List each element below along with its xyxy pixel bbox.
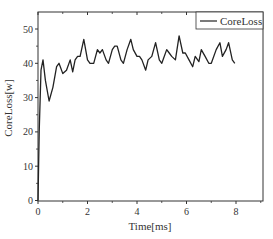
- x-tick-label: 6: [184, 206, 189, 217]
- x-axis-label: Time[ms]: [129, 220, 172, 232]
- y-tick-label: 20: [23, 126, 33, 137]
- y-axis: 01020304050: [23, 24, 38, 207]
- y-tick-label: 50: [23, 24, 33, 35]
- x-tick-label: 0: [36, 206, 41, 217]
- legend-label: CoreLoss: [220, 15, 262, 27]
- coreloss-line: [38, 36, 235, 201]
- line-chart: 01020304050 02468 CoreLoss Time[ms] Core…: [0, 0, 273, 239]
- y-tick-label: 0: [28, 195, 33, 206]
- plot-frame: [38, 12, 263, 201]
- x-axis: 02468: [36, 12, 261, 217]
- y-tick-label: 40: [23, 58, 33, 69]
- x-tick-label: 8: [234, 206, 239, 217]
- x-tick-label: 2: [85, 206, 90, 217]
- legend: CoreLoss: [196, 12, 263, 29]
- y-tick-label: 30: [23, 92, 33, 103]
- chart: 01020304050 02468 CoreLoss Time[ms] Core…: [0, 0, 273, 239]
- x-tick-label: 4: [135, 206, 140, 217]
- y-tick-label: 10: [23, 161, 33, 172]
- y-axis-label: CoreLoss[w]: [2, 79, 14, 136]
